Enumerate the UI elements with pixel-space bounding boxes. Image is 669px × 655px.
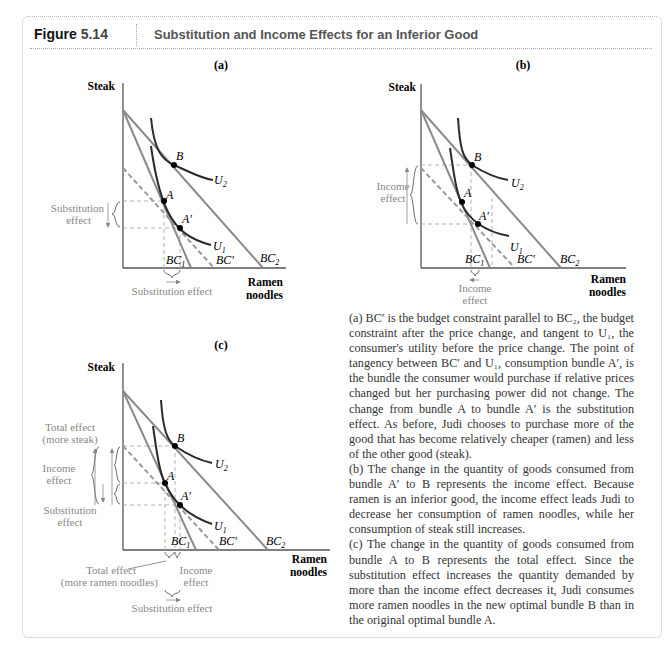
panel-c-bottom-income-1: Income [180, 564, 213, 576]
panel-c-x-axis-label-1: Ramen [292, 553, 328, 565]
bc1-label: BC1 [171, 534, 190, 550]
u1-label: U1 [214, 519, 227, 535]
panel-c-total-label-2: (more steak) [42, 433, 98, 446]
caption-a: (a) BC′ is the budget constraint paralle… [349, 311, 634, 462]
panel-c-bottom-subst: Substitution effect [132, 602, 213, 614]
panel-c-bottom-total-1: Total effect [86, 564, 136, 576]
panel-c-y-axis-label: Steak [88, 361, 116, 373]
panel-c-subst-label-2: effect [58, 516, 83, 528]
panel-c-bottom-total-2: (more ramen noodles) [61, 576, 158, 589]
panel-c-total-label-1: Total effect [45, 421, 95, 433]
u2-label: U2 [215, 457, 228, 473]
point-a-prime-label: A′ [180, 489, 191, 503]
caption-c: (c) The change in the quantity of goods … [349, 537, 634, 628]
caption-b: (b) The change in the quantity of goods … [349, 462, 634, 537]
point-a-label: A [166, 469, 175, 483]
panel-c-income-label-2: effect [47, 474, 72, 486]
point-b-label: B [177, 431, 185, 445]
panel-c-x-axis-label-2: noodles [290, 566, 328, 578]
panel-c-bottom-income-2: effect [184, 576, 209, 588]
panel-c-subst-label-1: Substitution [43, 504, 97, 516]
bc2-label: BC2 [266, 534, 285, 550]
figure-caption: (a) BC′ is the budget constraint paralle… [349, 311, 634, 628]
bc-prime-label: BC′ [219, 534, 237, 548]
panel-c-income-label-1: Income [43, 462, 76, 474]
panel-c-label: (c) [214, 338, 227, 352]
